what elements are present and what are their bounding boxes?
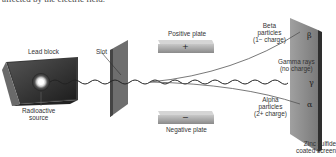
- label-slot: Slot: [96, 48, 107, 55]
- gamma-ray-path: [50, 80, 288, 84]
- label-text: Gamma rays: [278, 58, 315, 65]
- label-text: particles: [253, 29, 286, 36]
- beta-symbol: β: [307, 31, 312, 40]
- label-beta: Beta particles (1− charge): [253, 22, 286, 43]
- label-text: Zinc sulfide: [296, 140, 336, 147]
- label-lead-block: Lead block: [28, 48, 59, 55]
- minus-icon: −: [182, 113, 189, 122]
- label-text: Radioactive: [22, 107, 55, 114]
- label-text: source: [22, 114, 55, 121]
- label-negative-plate: Negative plate: [166, 126, 207, 133]
- label-text: (no charge): [278, 65, 315, 72]
- label-alpha: Alpha particles (2+ charge): [254, 96, 287, 117]
- label-text: coated screen: [296, 147, 336, 154]
- label-text: Beta: [253, 22, 286, 29]
- label-radioactive-source: Radioactive source: [22, 107, 55, 121]
- label-gamma: Gamma rays (no charge): [278, 58, 315, 72]
- label-text: (2+ charge): [254, 110, 287, 117]
- label-text: particles: [254, 103, 287, 110]
- label-text: (1− charge): [253, 36, 286, 43]
- label-screen: Zinc sulfide coated screen: [296, 140, 336, 154]
- gamma-symbol: γ: [309, 78, 314, 87]
- label-positive-plate: Positive plate: [168, 30, 206, 37]
- alpha-symbol: α: [307, 100, 312, 109]
- label-text: Alpha: [254, 96, 287, 103]
- zinc-sulfide-screen: [290, 18, 322, 152]
- lead-block: [2, 57, 78, 106]
- plus-icon: +: [182, 42, 189, 51]
